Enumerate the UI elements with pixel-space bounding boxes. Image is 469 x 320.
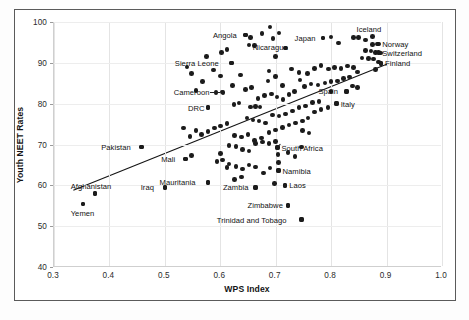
data-point bbox=[297, 105, 302, 110]
data-point bbox=[329, 79, 334, 84]
data-point bbox=[371, 57, 376, 62]
data-point bbox=[225, 165, 230, 170]
data-point bbox=[323, 81, 328, 86]
data-point bbox=[345, 64, 350, 69]
data-point bbox=[270, 113, 275, 118]
data-point bbox=[351, 65, 356, 70]
data-point-labeled bbox=[206, 180, 211, 185]
data-point bbox=[305, 71, 310, 76]
y-axis-tick-label: 90 bbox=[17, 58, 47, 67]
data-point-labeled bbox=[370, 34, 375, 39]
data-point-labeled bbox=[206, 105, 211, 110]
data-point bbox=[347, 75, 352, 80]
y-axis-tick-label: 80 bbox=[17, 99, 47, 108]
data-point bbox=[273, 74, 278, 79]
data-point bbox=[332, 65, 337, 70]
point-label-switzerland: Switzerland bbox=[382, 48, 422, 57]
data-point bbox=[219, 50, 224, 55]
point-label-iraq: Iraq bbox=[141, 183, 154, 192]
point-label-afghanistan: Afghanistan bbox=[71, 181, 112, 190]
data-point bbox=[350, 84, 355, 89]
data-point bbox=[273, 128, 278, 133]
data-point bbox=[268, 25, 273, 30]
data-point bbox=[260, 140, 265, 145]
data-point bbox=[181, 126, 186, 131]
data-point bbox=[188, 134, 193, 139]
data-point bbox=[297, 70, 302, 75]
data-point bbox=[266, 79, 271, 84]
data-point bbox=[336, 41, 341, 46]
data-point bbox=[251, 118, 256, 123]
y-axis-tick-mark bbox=[50, 267, 53, 268]
data-point bbox=[234, 164, 239, 169]
point-label-nicaragua: Nicaragua bbox=[253, 43, 288, 52]
data-point bbox=[300, 128, 305, 133]
data-point bbox=[326, 67, 331, 72]
x-axis-tick-label: 0.5 bbox=[144, 271, 184, 280]
data-point bbox=[355, 70, 360, 75]
data-point bbox=[302, 84, 307, 89]
data-point bbox=[306, 116, 311, 121]
figure-container: Youth NEET Rates WPS Index 4050607080901… bbox=[0, 0, 469, 320]
x-axis-tick-label: 0.4 bbox=[88, 271, 128, 280]
data-point bbox=[283, 112, 288, 117]
data-point bbox=[189, 71, 194, 76]
data-point bbox=[239, 135, 244, 140]
point-label-namibia: Namibia bbox=[282, 166, 310, 175]
data-point-labeled bbox=[183, 157, 188, 162]
data-point bbox=[232, 102, 237, 107]
y-axis-tick-label: 60 bbox=[17, 181, 47, 190]
data-point bbox=[258, 105, 263, 110]
point-label-south-africa: South Africa bbox=[281, 143, 323, 152]
data-point-labeled bbox=[283, 183, 288, 188]
point-label-mauritania: Mauritania bbox=[160, 178, 196, 187]
data-point-labeled bbox=[379, 61, 384, 66]
data-point bbox=[243, 87, 248, 92]
data-point bbox=[218, 74, 223, 79]
data-point bbox=[290, 109, 295, 114]
gridline-horizontal bbox=[54, 22, 441, 23]
data-point bbox=[247, 43, 252, 48]
point-label-iceland: Iceland bbox=[357, 24, 382, 33]
x-axis-tick-label: 0.9 bbox=[366, 271, 406, 280]
data-point bbox=[218, 124, 223, 129]
x-axis-tick-label: 0.7 bbox=[255, 271, 295, 280]
data-point bbox=[238, 73, 243, 78]
data-point bbox=[260, 31, 265, 36]
data-point bbox=[293, 121, 298, 126]
x-axis-label: WPS Index bbox=[53, 284, 441, 294]
y-axis-tick-label: 100 bbox=[17, 18, 47, 27]
data-point bbox=[310, 100, 315, 105]
data-point bbox=[247, 163, 252, 168]
data-point bbox=[215, 159, 220, 164]
data-point bbox=[312, 110, 317, 115]
data-point bbox=[287, 123, 292, 128]
point-label-cameroon: Cameroon bbox=[174, 88, 210, 97]
data-point bbox=[339, 66, 344, 71]
data-point bbox=[309, 82, 314, 87]
data-point bbox=[218, 151, 223, 156]
gridline-horizontal bbox=[54, 226, 441, 227]
data-point bbox=[256, 96, 261, 101]
data-point bbox=[257, 119, 262, 124]
x-axis-tick-label: 0.8 bbox=[310, 271, 350, 280]
point-label-finland: Finland bbox=[385, 59, 410, 68]
y-axis-tick-mark bbox=[50, 63, 53, 64]
data-point bbox=[275, 95, 280, 100]
data-point bbox=[248, 35, 253, 40]
data-point bbox=[276, 152, 281, 157]
data-point bbox=[355, 85, 360, 90]
data-point bbox=[292, 89, 297, 94]
data-point bbox=[232, 133, 237, 138]
data-point bbox=[287, 92, 292, 97]
data-point bbox=[269, 92, 274, 97]
data-point bbox=[356, 35, 361, 40]
data-point bbox=[220, 158, 225, 163]
data-point-labeled bbox=[276, 168, 281, 173]
data-point-labeled bbox=[271, 36, 276, 41]
data-point bbox=[253, 141, 258, 146]
data-point bbox=[341, 76, 346, 81]
y-axis-tick-mark bbox=[50, 226, 53, 227]
data-point bbox=[277, 114, 282, 119]
data-point-labeled bbox=[321, 36, 326, 41]
